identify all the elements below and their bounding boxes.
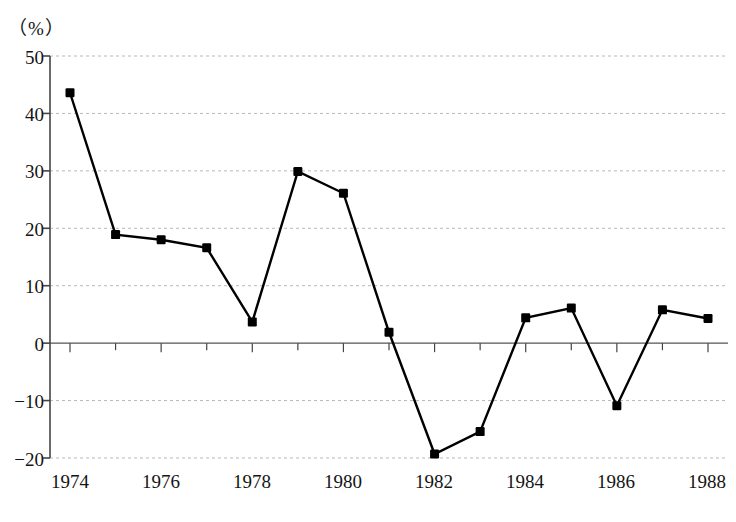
x-tick-label-1986: 1986: [581, 472, 651, 491]
x-tick-label-1974: 1974: [35, 472, 105, 491]
x-axis-tick-labels: 1974 1976 1978 1980 1982 1984 1986 1988: [0, 0, 736, 522]
x-tick-label-1980: 1980: [308, 472, 378, 491]
x-tick-label-1988: 1988: [672, 472, 736, 491]
chart-container: （%） 50 40 30 20 10 0 −10 −20 1974 1976 1…: [0, 0, 736, 522]
x-tick-label-1976: 1976: [126, 472, 196, 491]
x-tick-label-1978: 1978: [217, 472, 287, 491]
x-tick-label-1982: 1982: [399, 472, 469, 491]
x-tick-label-1984: 1984: [490, 472, 560, 491]
